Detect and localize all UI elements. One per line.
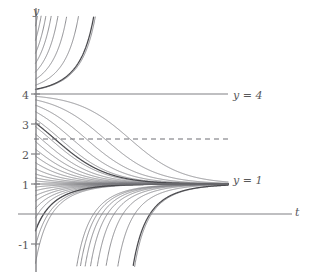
solution-curves-group xyxy=(36,16,229,266)
y-tick-label-1: 1 xyxy=(9,180,29,191)
t-axis-label: t xyxy=(295,207,299,218)
solution-curves-figure: y t 4 3 2 1 -1 y = 4 y = 1 xyxy=(0,0,313,277)
axes-group xyxy=(18,8,292,272)
y-tick-label-3: 3 xyxy=(9,120,29,131)
equilibrium-label-y1: y = 1 xyxy=(233,175,262,186)
y-tick-label-4: 4 xyxy=(9,90,29,101)
y-tick-label-neg1: -1 xyxy=(5,240,29,251)
y-axis-label: y xyxy=(33,6,39,17)
y-tick-label-2: 2 xyxy=(9,150,29,161)
equilibrium-label-y4: y = 4 xyxy=(233,90,262,101)
plot-canvas xyxy=(0,0,313,277)
